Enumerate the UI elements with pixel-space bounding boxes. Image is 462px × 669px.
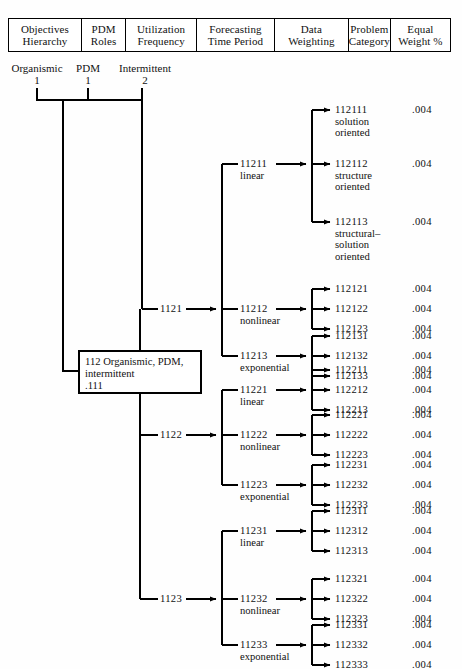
leaf-code: 112111 — [335, 104, 367, 115]
node-1123: 1123 — [160, 593, 182, 605]
leaf-desc-3: oriented — [335, 251, 380, 263]
weight-112231: .004 — [412, 459, 432, 471]
node-kind: linear — [240, 396, 268, 408]
leaf-112321: 112321 — [335, 573, 368, 585]
node-11213: 11213 exponential — [240, 350, 289, 373]
node-kind: exponential — [240, 651, 289, 663]
leaf-112113: 112113 structural– solution oriented — [335, 216, 380, 262]
node-kind: nonlinear — [240, 315, 280, 327]
leaf-code: 112313 — [335, 545, 368, 556]
leaf-112131: 112131 — [335, 330, 368, 342]
node-kind: exponential — [240, 362, 289, 374]
node-kind: nonlinear — [240, 441, 280, 453]
leaf-code: 112332 — [335, 639, 368, 650]
stem-organismic — [37, 88, 142, 100]
leaf-112132: 112132 — [335, 350, 368, 362]
leaf-112222: 112222 — [335, 429, 368, 441]
weight-112211: .004 — [412, 364, 432, 376]
node-code: 11233 — [240, 639, 289, 651]
weight-112112: .004 — [412, 158, 432, 170]
leaf-code: 112211 — [335, 364, 368, 375]
node-code: 1122 — [160, 429, 182, 441]
leaf-112111: 112111 solution oriented — [335, 104, 370, 139]
node-code: 11223 — [240, 479, 289, 491]
leaf-code: 112132 — [335, 350, 368, 361]
weight-112122: .004 — [412, 303, 432, 315]
node-11212: 11212 nonlinear — [240, 303, 280, 326]
leaf-desc-1: solution — [335, 116, 370, 128]
leaf-112312: 112312 — [335, 525, 368, 537]
node-11233: 11233 exponential — [240, 639, 289, 662]
leaf-code: 112312 — [335, 525, 368, 536]
leaf-code: 112131 — [335, 330, 368, 341]
leaf-code: 112122 — [335, 303, 368, 314]
leaf-desc-1: structural– — [335, 228, 380, 240]
weight-112311: .004 — [412, 505, 432, 517]
weight-112221: .004 — [412, 409, 432, 421]
weight-112131: .004 — [412, 330, 432, 342]
leaf-112331: 112331 — [335, 619, 368, 631]
leaf-code: 112113 — [335, 216, 368, 227]
leaf-112212: 112212 — [335, 384, 368, 396]
node-code: 1123 — [160, 593, 182, 605]
node-kind: linear — [240, 170, 267, 182]
node-kind: linear — [240, 537, 268, 549]
node-11231: 11231 linear — [240, 525, 268, 548]
leaf-112333: 112333 — [335, 659, 368, 669]
leaf-112121: 112121 — [335, 283, 368, 295]
node-1121: 1121 — [160, 303, 182, 315]
node-kind: exponential — [240, 491, 289, 503]
leaf-code: 112231 — [335, 459, 368, 470]
leaf-112313: 112313 — [335, 545, 368, 557]
leaf-112112: 112112 structure oriented — [335, 158, 372, 193]
node-code: 11212 — [240, 303, 280, 315]
root-box-line-1: 112 Organismic, PDM, — [85, 356, 200, 368]
root-node-box: 112 Organismic, PDM, intermittent .111 — [78, 350, 202, 394]
leaf-code: 112321 — [335, 573, 368, 584]
leaf-code: 112333 — [335, 659, 368, 669]
leaf-112322: 112322 — [335, 593, 368, 605]
leaf-desc-2: oriented — [335, 181, 372, 193]
weight-112312: .004 — [412, 525, 432, 537]
node-code: 11221 — [240, 384, 268, 396]
root-box-line-2: intermittent — [85, 368, 200, 380]
node-kind: nonlinear — [240, 605, 280, 617]
leaf-desc-1: structure — [335, 170, 372, 182]
trunk-to-root-box — [63, 100, 78, 371]
weight-112113: .004 — [412, 216, 432, 228]
diagram-canvas: Objectives Hierarchy PDM Roles Utilizati… — [0, 0, 462, 669]
leaf-code: 112212 — [335, 384, 368, 395]
leaf-code: 112112 — [335, 158, 368, 169]
leaf-code: 112322 — [335, 593, 368, 604]
leaf-code: 112311 — [335, 505, 368, 516]
leaf-112231: 112231 — [335, 459, 368, 471]
node-1122: 1122 — [160, 429, 182, 441]
node-code: 11213 — [240, 350, 289, 362]
node-code: 11211 — [240, 158, 267, 170]
weight-112322: .004 — [412, 593, 432, 605]
leaf-112221: 112221 — [335, 409, 368, 421]
node-code: 1121 — [160, 303, 182, 315]
node-11232: 11232 nonlinear — [240, 593, 280, 616]
connector-network — [0, 0, 462, 669]
node-code: 11222 — [240, 429, 280, 441]
root-box-line-3: .111 — [85, 380, 200, 392]
weight-112222: .004 — [412, 429, 432, 441]
leaf-code: 112121 — [335, 283, 368, 294]
node-11221: 11221 linear — [240, 384, 268, 407]
weight-112121: .004 — [412, 283, 432, 295]
leaf-112311: 112311 — [335, 505, 368, 517]
leaf-desc-2: oriented — [335, 127, 370, 139]
node-code: 11231 — [240, 525, 268, 537]
leaf-112332: 112332 — [335, 639, 368, 651]
leaf-code: 112331 — [335, 619, 368, 630]
weight-112332: .004 — [412, 639, 432, 651]
node-11222: 11222 nonlinear — [240, 429, 280, 452]
leaf-112211: 112211 — [335, 364, 368, 376]
weight-112132: .004 — [412, 350, 432, 362]
weight-112313: .004 — [412, 545, 432, 557]
weight-112232: .004 — [412, 479, 432, 491]
leaf-code: 112232 — [335, 479, 368, 490]
weight-112212: .004 — [412, 384, 432, 396]
node-code: 11232 — [240, 593, 280, 605]
